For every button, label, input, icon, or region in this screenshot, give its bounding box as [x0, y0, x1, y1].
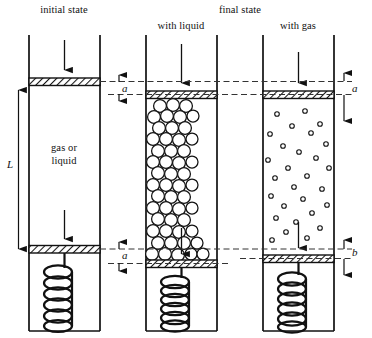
reference-dashed-lines: [100, 82, 352, 264]
top-piston: [29, 78, 100, 86]
dimension-label-b: b: [352, 246, 358, 258]
dimension-label-a-gas: a: [352, 82, 358, 94]
caption-with-liquid: with liquid: [158, 20, 205, 32]
liquid-particles: [146, 99, 209, 262]
dimension-label-L: L: [7, 158, 13, 170]
heading-final-state: final state: [219, 4, 261, 16]
caption-with-gas: with gas: [280, 20, 316, 32]
bottom-piston: [29, 246, 100, 254]
label-gas-or-liquid-line2: liquid: [51, 155, 76, 167]
spring-relaxed: [44, 253, 72, 332]
panel-final-with-liquid: [146, 35, 217, 332]
label-gas-or-liquid-line1: gas or: [51, 142, 77, 154]
panel-initial-state: [29, 35, 100, 332]
figure-canvas: initial state final state with liquid wi…: [0, 0, 372, 338]
dimension-label-a-bottom: a: [122, 249, 128, 261]
spring-relaxed: [278, 262, 306, 333]
dimension-label-a-top: a: [122, 82, 128, 94]
spring-compressed: [161, 267, 189, 332]
panel-final-with-gas: [263, 35, 334, 333]
cylinder-diagram-svg: [0, 0, 372, 338]
heading-initial-state: initial state: [40, 4, 88, 16]
